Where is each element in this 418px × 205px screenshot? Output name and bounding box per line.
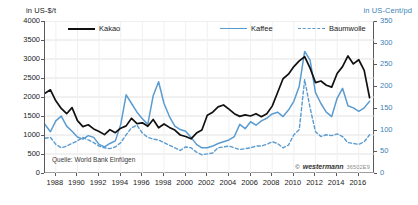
x-axis-tick-label: 1994 <box>109 179 131 187</box>
right-axis-tick-label: 100 <box>380 126 406 134</box>
x-axis-tick-label: 2004 <box>217 179 239 187</box>
x-axis-tick-mark <box>120 173 121 176</box>
x-axis-tick-label: 1996 <box>130 179 152 187</box>
left-axis-tick-mark <box>41 173 44 174</box>
right-axis-tick-label: 300 <box>380 39 406 47</box>
left-axis-tick-mark <box>41 40 44 41</box>
left-axis-tick-mark <box>41 97 44 98</box>
right-axis-tick-mark <box>374 108 377 109</box>
publisher-name: westermann <box>303 163 344 170</box>
x-axis-tick-mark <box>141 173 142 176</box>
left-axis-tick-mark <box>41 135 44 136</box>
left-axis-tick-label: 2500 <box>14 74 40 82</box>
right-axis-tick-label: 150 <box>380 104 406 112</box>
right-axis-tick-mark <box>374 21 377 22</box>
x-axis-tick-label: 2002 <box>195 179 217 187</box>
copyright-symbol-icon: © <box>295 164 299 170</box>
left-axis-tick-label: 3500 <box>14 36 40 44</box>
right-axis-tick-mark <box>374 130 377 131</box>
publisher-credit: © westermann 36502E9 <box>295 163 370 170</box>
x-axis-tick-mark <box>55 173 56 176</box>
publisher-code: 36502E9 <box>347 164 370 170</box>
x-axis-tick-label: 2016 <box>347 179 369 187</box>
x-axis-tick-mark <box>271 173 272 176</box>
x-axis-tick-mark <box>163 173 164 176</box>
x-axis-tick-mark <box>293 173 294 176</box>
x-axis-tick-mark <box>98 173 99 176</box>
left-axis-tick-label: 3000 <box>14 55 40 63</box>
legend-swatch-baumwolle-icon <box>298 28 325 29</box>
x-axis-tick-label: 2014 <box>325 179 347 187</box>
legend-item-baumwolle: Baumwolle <box>298 24 366 33</box>
right-axis-tick-label: 200 <box>380 82 406 90</box>
left-axis-tick-mark <box>41 59 44 60</box>
legend-label-kakao: Kakao <box>99 24 120 33</box>
legend-label-baumwolle: Baumwolle <box>329 24 366 33</box>
right-axis-tick-mark <box>374 43 377 44</box>
x-axis-tick-mark <box>336 173 337 176</box>
x-axis-tick-label: 1988 <box>44 179 66 187</box>
left-axis-tick-mark <box>41 116 44 117</box>
x-axis-tick-label: 1998 <box>152 179 174 187</box>
right-axis-tick-label: 0 <box>380 169 406 177</box>
x-axis-tick-label: 2008 <box>260 179 282 187</box>
source-note: Quelle: World Bank Einfügen <box>52 156 135 163</box>
right-axis-tick-mark <box>374 64 377 65</box>
legend-item-kaffee: Kaffee <box>220 24 273 33</box>
commodity-price-chart: in US-$/t in US-Cent/pd 4000350030002500… <box>0 0 418 205</box>
left-axis-unit-label: in US-$/t <box>26 6 56 15</box>
x-axis-tick-label: 2010 <box>282 179 304 187</box>
right-axis-tick-mark <box>374 173 377 174</box>
left-axis-tick-mark <box>41 21 44 22</box>
plot-area <box>44 21 374 173</box>
legend-swatch-kakao-icon <box>68 28 95 30</box>
right-axis-tick-label: 250 <box>380 60 406 68</box>
x-axis-tick-label: 2006 <box>239 179 261 187</box>
legend-label-kaffee: Kaffee <box>251 24 273 33</box>
x-axis-tick-mark <box>314 173 315 176</box>
left-axis-tick-label: 1000 <box>14 131 40 139</box>
x-axis-tick-mark <box>358 173 359 176</box>
x-axis-tick-label: 1990 <box>65 179 87 187</box>
left-axis-tick-label: 4000 <box>14 17 40 25</box>
left-axis-tick-mark <box>41 154 44 155</box>
right-axis-tick-mark <box>374 86 377 87</box>
x-axis-tick-label: 2012 <box>303 179 325 187</box>
right-axis-tick-label: 350 <box>380 17 406 25</box>
right-axis-tick-label: 50 <box>380 147 406 155</box>
x-axis-tick-label: 1992 <box>87 179 109 187</box>
x-axis-tick-mark <box>76 173 77 176</box>
left-axis-tick-label: 1500 <box>14 112 40 120</box>
left-axis-tick-mark <box>41 78 44 79</box>
left-axis-tick-label: 2000 <box>14 93 40 101</box>
legend-swatch-kaffee-icon <box>220 28 247 30</box>
x-axis-tick-mark <box>250 173 251 176</box>
left-axis-tick-label: 0 <box>14 169 40 177</box>
legend: Kakao Kaffee Baumwolle <box>48 24 372 38</box>
x-axis-tick-label: 2000 <box>174 179 196 187</box>
right-axis-tick-mark <box>374 151 377 152</box>
left-axis-tick-label: 500 <box>14 150 40 158</box>
x-axis-tick-mark <box>228 173 229 176</box>
legend-item-kakao: Kakao <box>68 24 120 33</box>
right-axis-unit-label: in US-Cent/pd <box>364 6 412 15</box>
series-lines <box>45 21 375 173</box>
x-axis-tick-mark <box>185 173 186 176</box>
x-axis-tick-mark <box>206 173 207 176</box>
